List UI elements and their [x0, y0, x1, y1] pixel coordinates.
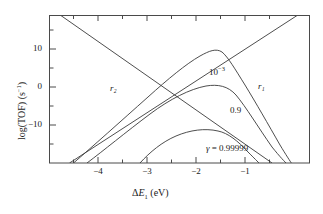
- annotation-gamma-1e-3-base: 10: [209, 67, 218, 77]
- annotation-gamma-0.9-text: 0.9: [230, 105, 241, 115]
- x-major-ticks: [98, 16, 245, 164]
- series-r1-line: [53, 10, 272, 163]
- x-axis-label-unit: (eV): [150, 187, 168, 198]
- x-tick-label-neg2: −2: [184, 167, 208, 176]
- y-axis-label-sup: −1: [15, 85, 22, 92]
- annotation-r1: r₁: [258, 82, 265, 91]
- chart-figure: 10 0 −10 −4 −3 −2 −1 ΔE1 (eV) log(TOF) (…: [0, 0, 323, 214]
- annotation-gamma-0.9: 0.9: [230, 106, 241, 115]
- y-axis-label: log(TOF) (s−1): [16, 82, 27, 140]
- series-r2-line: [70, 11, 305, 163]
- plot-canvas: [0, 0, 323, 214]
- y-axis-label-main: log(TOF) (s: [16, 92, 27, 140]
- annotation-r2-text: r₂: [110, 83, 117, 93]
- annotation-gamma-1e-3-exp: −3: [218, 65, 225, 72]
- y-tick-label-10: 10: [22, 44, 42, 53]
- x-axis-label: ΔE1 (eV): [132, 188, 169, 201]
- y-major-ticks: [50, 49, 57, 125]
- annotation-r1-text: r₁: [258, 81, 265, 91]
- x-tick-label-neg3: −3: [135, 167, 159, 176]
- x-tick-label-neg1: −1: [233, 167, 257, 176]
- plot-frame: [50, 16, 310, 164]
- annotation-gamma-value: = 0.99999: [210, 143, 249, 153]
- annotation-r2: r₂: [110, 84, 117, 93]
- annotation-gamma-1e-3: 10−3: [209, 66, 225, 77]
- x-axis-label-sub: 1: [145, 193, 148, 200]
- y-axis-label-close: ): [16, 82, 27, 85]
- series-gamma-1e-3-curve: [74, 50, 293, 164]
- x-tick-label-neg4: −4: [86, 167, 110, 176]
- annotation-gamma-0.99999: γ = 0.99999: [206, 144, 248, 153]
